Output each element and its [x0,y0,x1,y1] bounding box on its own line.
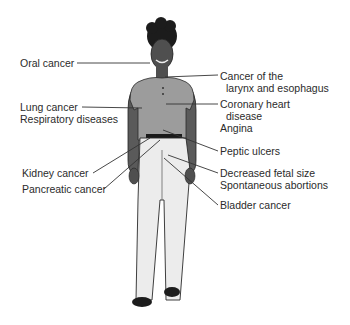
label-pancreatic-cancer: Pancreatic cancer [22,183,106,195]
person-figure [0,0,350,325]
label-text: Decreased fetal size [220,167,328,179]
label-text: Cancer of the [220,70,329,82]
label-text: Lung cancer [20,101,118,113]
label-larynx-cancer: Cancer of the larynx and esophagus [220,70,329,94]
label-lung-cancer: Lung cancer Respiratory diseases [20,101,118,125]
label-kidney-cancer: Kidney cancer [22,167,89,179]
label-oral-cancer: Oral cancer [20,57,74,69]
pants [136,138,190,300]
belt [146,134,182,138]
label-text: Oral cancer [20,57,74,69]
face [151,39,173,69]
label-text: Kidney cancer [22,167,89,179]
label-peptic-ulcers: Peptic ulcers [220,145,280,157]
label-text: disease [220,110,290,122]
label-text: Angina [220,122,290,134]
label-bladder-cancer: Bladder cancer [220,199,291,211]
left-shoe [132,297,152,307]
label-text: Spontaneous abortions [220,179,328,191]
right-shoe [164,287,180,297]
label-text: larynx and esophagus [220,82,329,94]
label-text: Pancreatic cancer [22,183,106,195]
label-coronary-heart-disease: Coronary heart disease Angina [220,98,290,134]
label-text: Respiratory diseases [20,113,118,125]
shirt [130,78,194,141]
label-text: Peptic ulcers [220,145,280,157]
label-fetal-effects: Decreased fetal size Spontaneous abortio… [220,167,328,191]
label-text: Coronary heart [220,98,290,110]
label-text: Bladder cancer [220,199,291,211]
